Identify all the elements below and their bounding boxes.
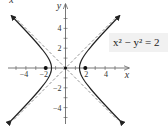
y-tick-label: −2	[53, 84, 62, 93]
x-axis-label: x	[124, 69, 130, 80]
x-tick-label: 4	[104, 70, 108, 79]
cut-off-label: −x	[2, 0, 14, 5]
center-point	[64, 66, 67, 69]
x-tick-label: −4	[20, 70, 29, 79]
y-tick-label: −4	[53, 104, 62, 113]
equation-label: x² − y² = 2	[109, 33, 168, 52]
axes	[8, 4, 129, 124]
tick-labels: −4−22442−2−4xy−x	[2, 0, 129, 113]
x-tick-label: 2	[84, 70, 88, 79]
x-tick-label: −2	[39, 70, 48, 79]
y-tick-label: 4	[58, 24, 62, 33]
y-axis-label: y	[56, 0, 62, 11]
y-tick-label: 2	[58, 44, 62, 53]
hyperbola-plot: −4−22442−2−4xy−x	[0, 0, 168, 126]
